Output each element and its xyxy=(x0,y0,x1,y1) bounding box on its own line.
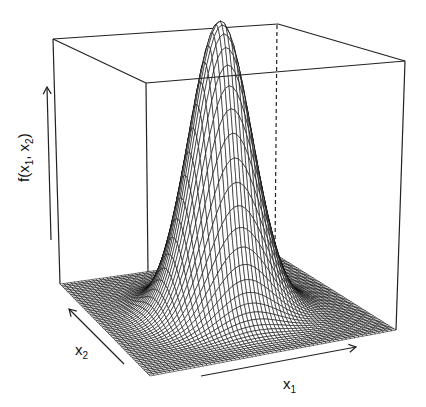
z-axis-arrow xyxy=(47,87,51,240)
box-edge-top-left-diagonal xyxy=(53,39,146,83)
box-edge-inner-vertical xyxy=(146,83,148,272)
box-edge-hidden-vertical xyxy=(275,25,277,254)
box-edge-left-vertical xyxy=(53,39,60,284)
perspective-plot: x1 x2 f(x1, x2) xyxy=(0,0,426,407)
x1-axis-label: x1 xyxy=(283,375,297,395)
box-edge-right-vertical xyxy=(396,61,405,330)
box-edge-top-back-right xyxy=(278,24,405,61)
gaussian-surface-mesh xyxy=(60,21,396,376)
x2-axis-label: x2 xyxy=(75,341,89,361)
box-edge-top-front xyxy=(146,61,405,83)
box-edge-top-back-left xyxy=(53,24,278,39)
z-axis-label: f(x1, x2) xyxy=(15,133,35,182)
